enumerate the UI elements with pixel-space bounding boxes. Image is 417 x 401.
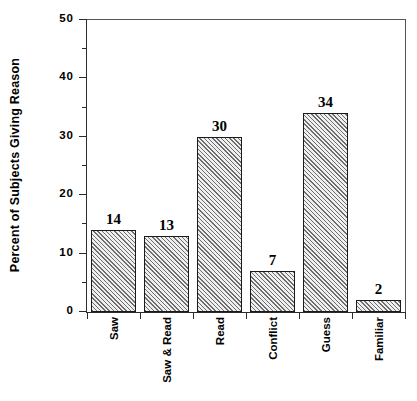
- bar-value-label: 14: [106, 211, 121, 228]
- x-tick: [87, 312, 88, 319]
- bar: 13: [144, 236, 189, 312]
- x-category-label-text: Saw: [108, 317, 120, 340]
- x-category-label-text: Familiar: [373, 317, 385, 361]
- bar: 7: [250, 271, 295, 312]
- x-category-label-text: Read: [214, 317, 226, 345]
- bar: 34: [303, 113, 348, 312]
- x-tick: [140, 312, 141, 319]
- y-tick-label: 50: [59, 12, 74, 24]
- x-category-label-text: Saw & Read: [161, 317, 173, 383]
- bar: 30: [197, 137, 242, 312]
- y-tick-major: 20: [79, 194, 87, 195]
- plot-area: 01020304050 1413307342 SawSaw & ReadRead…: [86, 19, 406, 313]
- bar: 14: [91, 230, 136, 312]
- y-tick-major: 10: [79, 253, 87, 254]
- bar-value-label: 2: [375, 281, 383, 298]
- y-tick-minor: [82, 223, 87, 224]
- bar-value-label: 34: [318, 94, 333, 111]
- y-tick-major: 0: [79, 311, 87, 312]
- y-tick-label: 20: [59, 187, 74, 199]
- x-category-label-text: Conflict: [267, 317, 279, 360]
- y-tick-label: 30: [59, 129, 74, 141]
- y-tick-label: 40: [59, 70, 74, 82]
- bar-value-label: 7: [269, 252, 277, 269]
- y-tick-minor: [82, 282, 87, 283]
- bar-chart-figure: Percent of Subjects Giving Reason 010203…: [0, 0, 417, 401]
- x-tick: [193, 312, 194, 319]
- y-tick-major: 50: [79, 19, 87, 20]
- x-tick: [352, 312, 353, 319]
- bar: 2: [356, 300, 401, 312]
- x-category-label-text: Guess: [320, 317, 332, 352]
- y-axis-title: Percent of Subjects Giving Reason: [0, 0, 30, 330]
- y-tick-minor: [82, 48, 87, 49]
- y-tick-minor: [82, 165, 87, 166]
- y-tick-major: 40: [79, 77, 87, 78]
- x-tick: [246, 312, 247, 319]
- y-tick-label: 0: [67, 304, 74, 316]
- y-axis-title-text: Percent of Subjects Giving Reason: [8, 58, 22, 272]
- x-tick: [405, 312, 406, 319]
- bar-value-label: 13: [159, 217, 174, 234]
- y-tick-minor: [82, 107, 87, 108]
- x-tick: [299, 312, 300, 319]
- y-tick-major: 30: [79, 136, 87, 137]
- y-tick-label: 10: [59, 246, 74, 258]
- bar-value-label: 30: [212, 118, 227, 135]
